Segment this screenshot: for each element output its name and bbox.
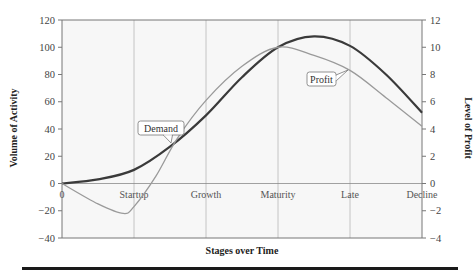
y2-axis-title: Level of Profit bbox=[463, 97, 474, 159]
x-axis-title: Stages over Time bbox=[206, 245, 279, 256]
y-tick-label: 20 bbox=[45, 151, 56, 162]
y-tick-label: 100 bbox=[39, 42, 55, 53]
stage-label: Growth bbox=[191, 189, 222, 200]
y2-tick-label: −4 bbox=[430, 233, 442, 244]
y-tick-label: −20 bbox=[39, 205, 55, 216]
y2-tick-label: 6 bbox=[430, 96, 435, 107]
y2-tick-label: 4 bbox=[430, 124, 436, 135]
stage-label: Late bbox=[341, 189, 359, 200]
plot-area bbox=[62, 20, 422, 238]
svg-text:Profit: Profit bbox=[310, 74, 333, 85]
y-tick-label: 120 bbox=[39, 15, 55, 26]
right-axis-ticks: −4−2024681012 bbox=[422, 15, 442, 244]
stage-label: Decline bbox=[406, 189, 438, 200]
bottom-rule bbox=[22, 267, 458, 270]
left-axis-ticks: −40−20020406080100120 bbox=[39, 15, 62, 244]
y2-tick-label: 12 bbox=[430, 15, 441, 26]
svg-text:Demand: Demand bbox=[144, 123, 178, 134]
y-tick-label: 80 bbox=[45, 69, 56, 80]
stage-label: 0 bbox=[60, 189, 65, 200]
y-tick-label: 60 bbox=[45, 96, 56, 107]
lifecycle-chart: −40−20020406080100120 −4−2024681012 0Sta… bbox=[0, 0, 474, 275]
y2-tick-label: −2 bbox=[430, 205, 441, 216]
y2-tick-label: 0 bbox=[430, 178, 435, 189]
y-tick-label: 40 bbox=[45, 124, 56, 135]
y2-tick-label: 2 bbox=[430, 151, 435, 162]
y2-tick-label: 10 bbox=[430, 42, 441, 53]
y-tick-label: −40 bbox=[39, 233, 55, 244]
y-axis-title: Volume of Activity bbox=[8, 88, 19, 167]
stage-label: Maturity bbox=[261, 189, 296, 200]
y2-tick-label: 8 bbox=[430, 69, 435, 80]
y-tick-label: 0 bbox=[50, 178, 55, 189]
